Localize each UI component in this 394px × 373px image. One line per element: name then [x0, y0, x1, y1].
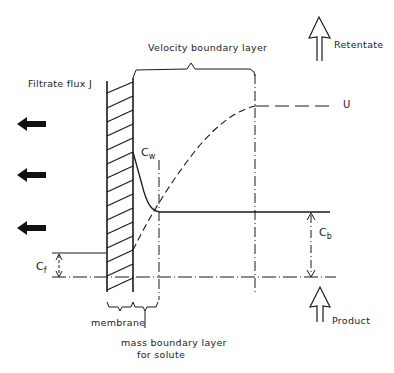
membrane-brace: [107, 302, 133, 311]
cb-dimension: [307, 213, 315, 277]
velocity-boundary-layer-label: Velocity boundary layer: [148, 42, 267, 53]
u-label: U: [343, 99, 351, 110]
left-arrow-icon: [17, 168, 46, 182]
velocity-boundary-brace: [133, 63, 255, 78]
filtrate-flux-label: Filtrate flux J: [28, 78, 92, 89]
product-label: Product: [332, 315, 370, 326]
cf-symbol: C: [36, 260, 44, 273]
cw-symbol: C: [141, 146, 149, 159]
cf-subscript: f: [44, 266, 47, 275]
up-hollow-arrow-icon: [310, 287, 330, 322]
concentration-profile-curve: [133, 152, 330, 212]
left-arrow-icon: [17, 117, 46, 131]
cb-subscript: b: [327, 232, 332, 241]
membrane-label: membrane: [91, 317, 145, 328]
up-hollow-arrow-icon: [309, 17, 330, 61]
mass-boundary-brace: [133, 302, 158, 311]
cb-label: Cb: [319, 226, 332, 241]
velocity-profile-curve: [133, 106, 255, 250]
cf-dimension: [56, 254, 62, 277]
retentate-label: Retentate: [334, 39, 383, 50]
cf-label: Cf: [36, 260, 47, 275]
left-arrow-icon: [17, 221, 46, 235]
cb-symbol: C: [319, 226, 327, 239]
mass-boundary-label-line2: for solute: [137, 349, 185, 360]
membrane-block: [107, 78, 133, 292]
cw-subscript: w: [149, 152, 156, 161]
cw-label: Cw: [141, 146, 155, 161]
mass-boundary-label-line1: mass boundary layer: [121, 337, 227, 348]
